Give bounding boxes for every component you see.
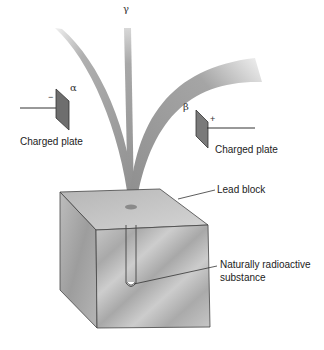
substance-label-line2: substance: [220, 272, 266, 284]
beta-label: β: [183, 101, 189, 112]
gamma-label: γ: [123, 3, 129, 14]
beta-beam: [129, 58, 262, 205]
lead-block-leader: [178, 190, 215, 199]
right-plate-label: Charged plate: [215, 144, 278, 156]
left-charged-plate: [20, 89, 69, 130]
lead-block: [60, 189, 210, 328]
diagram-canvas: [0, 0, 324, 350]
left-plate-label: Charged plate: [20, 136, 83, 148]
plus-sign: +: [210, 114, 215, 124]
minus-sign: −: [48, 92, 53, 102]
alpha-label: α: [70, 82, 77, 93]
substance-label-line1: Naturally radioactive: [220, 259, 311, 271]
lead-block-label: Lead block: [217, 184, 265, 196]
right-charged-plate: [196, 110, 255, 148]
